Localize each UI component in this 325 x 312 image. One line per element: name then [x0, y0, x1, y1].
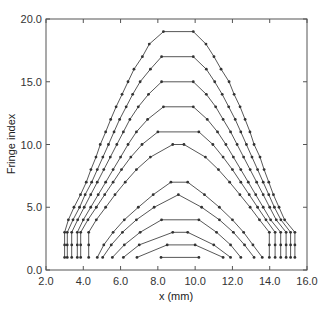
series-fringe-6: [101, 193, 255, 259]
series-fringe-1: [160, 256, 201, 259]
data-point-marker: [258, 218, 261, 221]
data-point-marker: [279, 231, 282, 234]
data-point-marker: [115, 105, 118, 108]
data-point-marker: [192, 105, 195, 108]
data-point-marker: [87, 244, 90, 247]
y-tick-label: 0.0: [27, 264, 42, 276]
data-point-marker: [275, 218, 278, 221]
data-point-marker: [232, 156, 235, 159]
data-point-marker: [222, 156, 225, 159]
data-point-marker: [160, 218, 163, 221]
data-point-marker: [228, 80, 231, 83]
data-point-marker: [96, 181, 99, 184]
data-point-marker: [63, 231, 66, 234]
data-point-marker: [127, 143, 130, 146]
data-point-marker: [197, 256, 200, 259]
data-point-marker: [67, 218, 70, 221]
data-point-marker: [211, 143, 214, 146]
data-point-marker: [114, 193, 117, 196]
data-point-marker: [267, 181, 270, 184]
x-tick-label: 4.0: [76, 275, 91, 287]
data-point-marker: [160, 55, 163, 58]
data-point-marker: [256, 206, 259, 209]
data-point-marker: [228, 181, 231, 184]
data-point-marker: [87, 218, 90, 221]
data-point-marker: [95, 206, 98, 209]
data-point-marker: [293, 256, 296, 259]
data-point-marker: [239, 168, 242, 171]
data-point-marker: [76, 256, 79, 259]
data-point-marker: [118, 118, 121, 121]
data-point-marker: [73, 206, 76, 209]
data-point-marker: [101, 156, 104, 159]
data-point-marker: [63, 244, 66, 247]
data-point-marker: [249, 168, 252, 171]
y-axis-title: Fringe index: [5, 113, 17, 174]
data-point-marker: [239, 105, 242, 108]
data-point-marker: [76, 244, 79, 247]
data-point-marker: [253, 143, 256, 146]
data-point-marker: [203, 193, 206, 196]
data-point-marker: [212, 244, 215, 247]
data-point-marker: [101, 256, 104, 259]
data-point-marker: [221, 93, 224, 96]
data-point-marker: [268, 256, 271, 259]
data-point-marker: [79, 256, 82, 259]
data-point-marker: [217, 168, 220, 171]
data-point-marker: [129, 156, 132, 159]
data-point-marker: [274, 244, 277, 247]
y-tick-label: 10.0: [21, 139, 42, 151]
data-point-marker: [265, 218, 268, 221]
data-point-marker: [123, 218, 126, 221]
data-point-marker: [213, 55, 216, 58]
data-point-marker: [66, 256, 69, 259]
data-point-marker: [186, 231, 189, 234]
series-fringe-17: [66, 55, 292, 259]
data-point-marker: [222, 118, 225, 121]
data-point-marker: [70, 244, 73, 247]
data-point-marker: [242, 156, 245, 159]
data-point-marker: [261, 256, 264, 259]
data-point-marker: [197, 218, 200, 221]
data-point-marker: [247, 181, 250, 184]
data-point-marker: [254, 193, 257, 196]
data-point-marker: [90, 181, 93, 184]
data-point-marker: [239, 256, 242, 259]
data-point-marker: [273, 206, 276, 209]
data-point-marker: [102, 168, 105, 171]
data-point-marker: [79, 244, 82, 247]
data-point-marker: [141, 143, 144, 146]
data-point-marker: [152, 193, 155, 196]
data-point-marker: [206, 118, 209, 121]
data-point-marker: [139, 231, 142, 234]
data-point-marker: [229, 131, 232, 134]
data-point-marker: [259, 156, 262, 159]
data-point-marker: [213, 80, 216, 83]
data-point-marker: [104, 206, 107, 209]
data-point-marker: [204, 156, 207, 159]
data-point-marker: [96, 168, 99, 171]
data-point-marker: [110, 244, 113, 247]
data-point-marker: [147, 93, 150, 96]
data-point-marker: [112, 168, 115, 171]
data-point-marker: [231, 218, 234, 221]
data-point-marker: [135, 168, 138, 171]
data-point-marker: [70, 231, 73, 234]
x-tick-label: 10.0: [184, 275, 205, 287]
data-point-marker: [186, 181, 189, 184]
data-point-marker: [225, 143, 228, 146]
data-point-marker: [146, 118, 149, 121]
data-point-marker: [131, 93, 134, 96]
data-point-marker: [263, 168, 266, 171]
data-point-marker: [262, 193, 265, 196]
data-point-marker: [272, 193, 275, 196]
data-point-marker: [232, 231, 235, 234]
x-tick-label: 2.0: [38, 275, 53, 287]
data-point-marker: [289, 244, 292, 247]
data-point-marker: [279, 256, 282, 259]
data-point-marker: [280, 218, 283, 221]
data-point-marker: [229, 256, 232, 259]
data-point-marker: [205, 68, 208, 71]
x-tick-label: 8.0: [150, 275, 165, 287]
data-point-marker: [63, 256, 66, 259]
